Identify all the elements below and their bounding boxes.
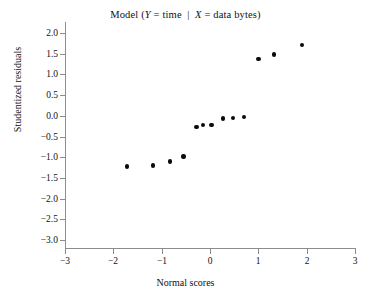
- y-axis-tick-label: 2.0: [46, 28, 58, 38]
- scatter-point: [181, 154, 185, 158]
- x-axis-tick-label: −3: [50, 256, 80, 266]
- y-axis-tick: [60, 116, 65, 117]
- x-axis-tick-label: −1: [147, 256, 177, 266]
- y-axis-tick-label: −2.5: [41, 214, 58, 224]
- scatter-point: [194, 125, 198, 129]
- chart-title: Model (Y = time | X = data bytes): [0, 9, 371, 20]
- scatter-point: [168, 159, 172, 163]
- scatter-point: [231, 116, 235, 120]
- x-axis-tick: [162, 249, 163, 254]
- scatter-point: [209, 123, 213, 127]
- chart-title-suffix: ): [257, 9, 261, 20]
- y-axis-tick-label: 0.5: [46, 90, 58, 100]
- x-axis-title: Normal scores: [0, 277, 371, 288]
- x-axis-tick: [113, 249, 114, 254]
- y-axis-tick-label: −2.0: [41, 194, 58, 204]
- y-axis-tick-label: −3.0: [41, 235, 58, 245]
- chart-title-separator: |: [187, 9, 189, 20]
- y-axis-tick: [60, 157, 65, 158]
- x-axis-tick: [258, 249, 259, 254]
- y-axis-tick: [60, 240, 65, 241]
- scatter-point: [151, 163, 155, 167]
- y-axis-tick: [60, 199, 65, 200]
- y-axis-tick-label: 1.0: [46, 69, 58, 79]
- x-axis-tick: [307, 249, 308, 254]
- x-axis-tick-label: −2: [98, 256, 128, 266]
- y-axis-tick-label: −1.0: [41, 152, 58, 162]
- chart-title-y-expression: = time: [151, 9, 182, 20]
- plot-area: [66, 22, 356, 248]
- scatter-point: [221, 116, 225, 120]
- x-axis-tick-label: 3: [340, 256, 370, 266]
- y-axis-tick: [60, 54, 65, 55]
- x-axis-tick-label: 1: [243, 256, 273, 266]
- x-axis-tick: [355, 249, 356, 254]
- x-axis-tick-label: 0: [195, 256, 225, 266]
- normal-probability-plot-figure: Model (Y = time | X = data bytes) 2.01.5…: [0, 0, 371, 301]
- y-axis-tick-label: 1.5: [46, 49, 58, 59]
- y-axis-tick-label: −0.5: [41, 132, 58, 142]
- x-axis-tick: [65, 249, 66, 254]
- y-axis-tick: [60, 219, 65, 220]
- y-axis-tick-label: −1.5: [41, 173, 58, 183]
- x-axis-tick-label: 2: [292, 256, 322, 266]
- scatter-point: [256, 57, 260, 61]
- x-axis-tick: [210, 249, 211, 254]
- y-axis-tick: [60, 178, 65, 179]
- y-axis-tick: [60, 74, 65, 75]
- y-axis-tick: [60, 137, 65, 138]
- y-axis-tick: [60, 33, 65, 34]
- scatter-point: [272, 52, 276, 56]
- chart-title-prefix: Model (: [110, 9, 145, 20]
- y-axis-tick: [60, 95, 65, 96]
- y-axis-tick-label: 0.0: [46, 111, 58, 121]
- scatter-point: [125, 164, 129, 168]
- y-axis-title: Studentized residuals: [12, 20, 23, 160]
- chart-title-x-expression: = data bytes: [202, 9, 257, 20]
- chart-title-x-variable: X: [195, 9, 202, 20]
